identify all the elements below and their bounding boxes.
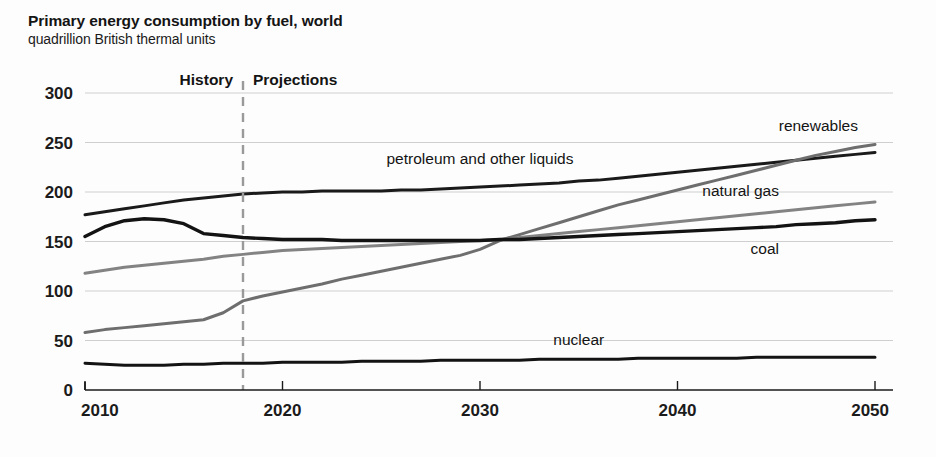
y-axis-tick-label: 50 <box>54 332 73 351</box>
projections-annotation: Projections <box>253 71 337 88</box>
series-label-renewables: renewables <box>779 117 859 134</box>
y-axis-tick-label: 100 <box>45 282 73 301</box>
y-axis-tick-label: 150 <box>45 233 73 252</box>
x-axis-tick-label: 2030 <box>461 401 499 420</box>
series-line-nuclear <box>85 357 875 365</box>
series-line-natural-gas <box>85 202 875 273</box>
history-annotation: History <box>180 71 234 88</box>
series-label-natural-gas: natural gas <box>702 182 779 199</box>
x-axis-tick-label: 2020 <box>264 401 302 420</box>
series-line-renewables <box>85 144 875 332</box>
y-axis-tick-label: 200 <box>45 183 73 202</box>
energy-consumption-line-chart: 05010015020025030020102020203020402050 p… <box>0 0 936 457</box>
x-axis-tick-label: 2050 <box>851 401 889 420</box>
y-axis-tick-label: 300 <box>45 84 73 103</box>
x-axis-tick-label: 2040 <box>659 401 697 420</box>
series-labels: petroleum and other liquidsrenewablesnat… <box>387 117 859 349</box>
series-label-nuclear: nuclear <box>553 331 604 348</box>
series-line-coal <box>85 219 875 241</box>
chart-page: Primary energy consumption by fuel, worl… <box>0 0 936 457</box>
phase-annotations: HistoryProjections <box>180 71 338 88</box>
x-axis-tick-label: 2010 <box>81 401 119 420</box>
gridlines <box>85 93 893 341</box>
series-label-petroleum-and-other-liquids: petroleum and other liquids <box>387 150 574 167</box>
series-label-coal: coal <box>751 240 779 257</box>
y-axis-tick-label: 250 <box>45 134 73 153</box>
y-axis-tick-label: 0 <box>64 381 73 400</box>
